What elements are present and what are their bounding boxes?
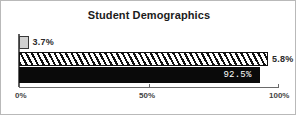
chart-title: Student Demographics <box>1 9 296 22</box>
bar-series-2[interactable] <box>19 52 268 66</box>
chart-container: Student Demographics 3.7% 5.8% 92.5% 0% … <box>0 0 296 115</box>
data-label-series-3: 92.5% <box>224 70 252 80</box>
axis-tick-label-50: 50% <box>139 91 155 101</box>
data-label-series-1: 3.7% <box>33 37 54 47</box>
axis-tick-label-0: 0% <box>15 91 27 101</box>
axis-tick-label-100: 100% <box>269 91 289 101</box>
plot-area: 3.7% 5.8% 92.5% <box>19 34 279 87</box>
bar-series-1[interactable] <box>19 36 29 49</box>
data-label-series-2: 5.8% <box>272 54 293 64</box>
